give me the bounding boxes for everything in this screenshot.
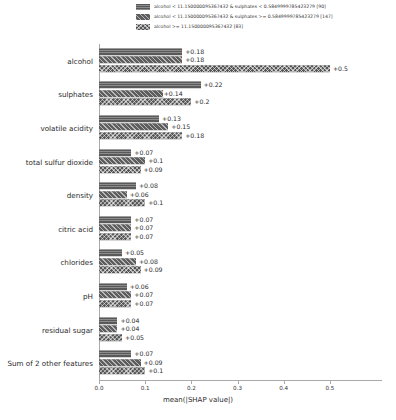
bar-row[interactable]: +0.04 <box>99 325 353 332</box>
bar-group: alcohol+0.18+0.18+0.5 <box>99 44 353 78</box>
bar-value-label: +0.07 <box>134 225 153 232</box>
bar[interactable] <box>99 65 330 72</box>
bar-group: Sum of 2 other features+0.07+0.09+0.1 <box>99 346 353 380</box>
bar-row[interactable]: +0.15 <box>99 124 353 131</box>
bar-value-label: +0.05 <box>125 250 144 257</box>
bar[interactable] <box>99 267 141 274</box>
bar-group: citric acid+0.07+0.07+0.07 <box>99 212 353 246</box>
legend-swatch-icon <box>136 14 150 20</box>
chart-legend: alcohol < 11.150000095367432 & sulphates… <box>0 2 396 32</box>
bar-value-label: +0.18 <box>185 48 204 55</box>
bar-value-label: +0.04 <box>120 317 139 324</box>
bar-value-label: +0.06 <box>130 283 149 290</box>
bar-row[interactable]: +0.09 <box>99 166 353 173</box>
x-axis-tick <box>191 381 192 384</box>
bar-row[interactable]: +0.06 <box>99 283 353 290</box>
bar-value-label: +0.18 <box>185 57 204 64</box>
bar[interactable] <box>99 367 145 374</box>
bar-group: density+0.08+0.06+0.1 <box>99 178 353 212</box>
bar-row[interactable]: +0.14 <box>99 90 353 97</box>
legend-item-0[interactable]: alcohol < 11.150000095367432 & sulphates… <box>0 2 396 11</box>
bar-value-label: +0.13 <box>162 115 181 122</box>
bar-row[interactable]: +0.18 <box>99 48 353 55</box>
bar[interactable] <box>99 359 141 366</box>
bar-row[interactable]: +0.09 <box>99 359 353 366</box>
bar-row[interactable]: +0.13 <box>99 115 353 122</box>
x-axis-tick <box>330 381 331 384</box>
bar[interactable] <box>99 182 136 189</box>
y-axis-tick-label: chlorides <box>60 258 93 267</box>
bar[interactable] <box>99 124 168 131</box>
bar-row[interactable]: +0.07 <box>99 149 353 156</box>
bar-value-label: +0.07 <box>134 233 153 240</box>
bar[interactable] <box>99 57 182 64</box>
bar-row[interactable]: +0.04 <box>99 317 353 324</box>
bar-row[interactable]: +0.18 <box>99 57 353 64</box>
bar[interactable] <box>99 132 182 139</box>
bar[interactable] <box>99 283 127 290</box>
bar-row[interactable]: +0.07 <box>99 292 353 299</box>
bar-value-label: +0.5 <box>333 65 348 72</box>
bar[interactable] <box>99 48 182 55</box>
bar[interactable] <box>99 292 131 299</box>
bar-value-label: +0.07 <box>134 216 153 223</box>
bar-value-label: +0.14 <box>163 90 184 97</box>
bar[interactable] <box>99 191 127 198</box>
bar[interactable] <box>99 258 136 265</box>
legend-swatch-icon <box>136 24 150 30</box>
legend-item-1[interactable]: alcohol < 11.150000095367432 & sulphates… <box>0 12 396 21</box>
bar-row[interactable]: +0.07 <box>99 300 353 307</box>
bar[interactable] <box>99 250 122 257</box>
bar-row[interactable]: +0.07 <box>99 225 353 232</box>
bar[interactable] <box>99 166 141 173</box>
bar-value-label: +0.07 <box>134 149 153 156</box>
bar-value-label: +0.22 <box>204 82 223 89</box>
bar-row[interactable]: +0.06 <box>99 191 353 198</box>
bar[interactable] <box>99 99 191 106</box>
bar-row[interactable]: +0.05 <box>99 250 353 257</box>
bar-row[interactable]: +0.1 <box>99 157 353 164</box>
bar-group: sulphates+0.22+0.14+0.2 <box>99 78 353 112</box>
bar-row[interactable]: +0.07 <box>99 233 353 240</box>
legend-item-2[interactable]: alcohol >= 11.150000095367432 [83] <box>0 22 396 31</box>
x-axis-tick-label: 0.2 <box>187 385 196 391</box>
bar[interactable] <box>99 149 131 156</box>
bar-row[interactable]: +0.09 <box>99 267 353 274</box>
bar[interactable] <box>99 115 159 122</box>
bar-row[interactable]: +0.5 <box>99 65 353 72</box>
bar-row[interactable]: +0.05 <box>99 334 353 341</box>
bar[interactable] <box>99 317 117 324</box>
bar-row[interactable]: +0.1 <box>99 367 353 374</box>
bar[interactable] <box>99 300 131 307</box>
y-axis-tick-label: residual sugar <box>42 325 93 334</box>
x-axis-tick <box>145 381 146 384</box>
bar-group: chlorides+0.05+0.08+0.09 <box>99 246 353 280</box>
x-axis-tick-label: 0.1 <box>141 385 150 391</box>
legend-swatch-icon <box>136 4 150 10</box>
bar-row[interactable]: +0.22 <box>99 82 353 89</box>
y-axis-tick-label: citric acid <box>58 224 93 233</box>
bar[interactable] <box>99 233 131 240</box>
bar-row[interactable]: +0.07 <box>99 216 353 223</box>
bar-value-label: +0.1 <box>148 367 163 374</box>
x-axis-tick-label: 0.0 <box>95 385 104 391</box>
bar-row[interactable]: +0.07 <box>99 350 353 357</box>
bar-value-label: +0.06 <box>130 191 149 198</box>
bar-row[interactable]: +0.1 <box>99 199 353 206</box>
bar-row[interactable]: +0.18 <box>99 132 353 139</box>
bar[interactable] <box>99 325 117 332</box>
bar-value-label: +0.09 <box>144 359 163 366</box>
bar[interactable] <box>99 90 164 97</box>
bar[interactable] <box>99 199 145 206</box>
bar[interactable] <box>99 225 131 232</box>
bar-value-label: +0.07 <box>134 300 153 307</box>
bar-row[interactable]: +0.08 <box>99 258 353 265</box>
bar[interactable] <box>99 350 131 357</box>
bar[interactable] <box>99 334 122 341</box>
bar-row[interactable]: +0.08 <box>99 182 353 189</box>
bar[interactable] <box>99 157 145 164</box>
bar[interactable] <box>99 216 131 223</box>
bar-row[interactable]: +0.2 <box>99 99 353 106</box>
y-axis-tick-label: volatile acidity <box>40 123 93 132</box>
bar[interactable] <box>99 82 201 89</box>
